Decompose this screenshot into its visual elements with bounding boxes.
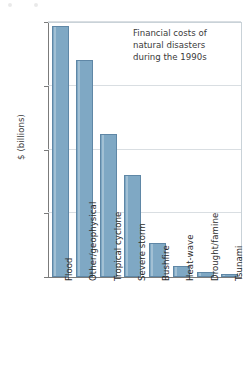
gridline: [48, 21, 241, 22]
scan-speck: [8, 3, 12, 7]
y-tick-mark: [44, 150, 48, 151]
y-tick-mark: [44, 22, 48, 23]
x-tick-label: Heat-wave: [185, 234, 195, 281]
bar: [52, 26, 69, 277]
x-tick-label: Flood: [64, 257, 74, 281]
x-tick-label: Tropical cyclone: [113, 212, 123, 281]
annotation-line: during the 1990s: [133, 51, 245, 63]
x-tick-label: Bushfire: [161, 245, 171, 281]
y-tick-mark: [44, 213, 48, 214]
annotation-line: Financial costs of: [133, 27, 245, 39]
y-tick-mark: [44, 277, 48, 278]
x-tick-label: Other/geophysical: [88, 202, 98, 281]
chart-annotation: Financial costs of natural disasters dur…: [133, 27, 245, 64]
y-axis-title: $ (billions): [16, 92, 26, 182]
y-tick-mark: [44, 86, 48, 87]
x-tick-label: Tsunami: [234, 245, 244, 281]
x-tick-label: Drought/famine: [210, 213, 220, 281]
bar-chart: $ (billions) 050100150200 FloodOther/geo…: [0, 0, 250, 370]
x-tick-label: Severe storm: [137, 223, 147, 281]
scan-speck: [34, 3, 38, 7]
annotation-line: natural disasters: [133, 39, 245, 51]
